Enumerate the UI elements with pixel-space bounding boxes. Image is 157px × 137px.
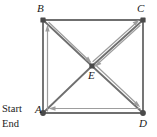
vertex-dot-C — [140, 17, 145, 22]
end-annotation-label: End — [2, 119, 19, 130]
vertex-label-a: A — [35, 104, 42, 115]
path-step-E-to-C — [93, 20, 140, 62]
edge-E-C — [92, 20, 143, 66]
edge-A-E — [43, 66, 92, 113]
path-step-B-to-E — [49, 23, 92, 64]
start-annotation-label: Start — [2, 104, 22, 115]
path-step-D-to-A — [49, 106, 141, 110]
path-step-C-to-E — [95, 26, 140, 67]
vertex-label-d: D — [139, 118, 147, 129]
edge-B-E — [43, 20, 92, 66]
vertex-label-e: E — [88, 70, 95, 81]
path-step-E-to-D — [95, 65, 140, 108]
edge-E-D — [92, 66, 143, 113]
graph-figure: B C E A D Start End — [0, 0, 157, 137]
vertex-label-b: B — [37, 3, 44, 14]
vertex-dot-E — [89, 63, 94, 68]
vertex-dot-D — [140, 110, 146, 116]
path-step-A-to-B — [45, 25, 49, 112]
vertex-dot-B — [40, 17, 45, 22]
vertex-label-c: C — [137, 3, 144, 14]
graph-diagram-svg — [0, 0, 157, 137]
